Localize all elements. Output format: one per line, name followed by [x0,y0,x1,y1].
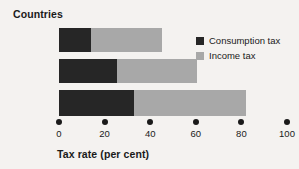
x-axis-title: Tax rate (per cent) [57,148,149,160]
x-axis-tick-label: 40 [130,128,170,139]
legend-label: Income tax [209,50,255,61]
bar-segment-consumption-tax[interactable] [59,90,134,116]
bar-segment-consumption-tax[interactable] [59,59,117,83]
legend-item-income-tax[interactable]: Income tax [196,49,280,62]
x-axis-tick-label: 100 [267,128,299,139]
bar-segment-consumption-tax[interactable] [59,28,91,52]
legend-swatch-icon [196,37,204,45]
x-axis-tick-label: 0 [39,128,79,139]
tick-dot-icon [238,119,244,125]
plot-area: US UK France 020406080100 Tax rate (per [0,0,299,169]
legend-swatch-icon [196,52,204,60]
legend-item-consumption-tax[interactable]: Consumption tax [196,34,280,47]
x-axis-tick-label: 20 [85,128,125,139]
tick-dot-icon [284,119,290,125]
x-axis-tick-label: 60 [176,128,216,139]
bar-segment-income-tax[interactable] [134,90,246,116]
tick-dot-icon [56,119,62,125]
x-axis: 020406080100 [0,119,299,145]
tick-dot-icon [193,119,199,125]
tick-dot-icon [102,119,108,125]
legend: Consumption tax Income tax [196,34,280,64]
legend-label: Consumption tax [209,35,280,46]
stacked-bar-us[interactable] [59,28,162,52]
bar-segment-income-tax[interactable] [91,28,162,52]
stacked-bar-uk[interactable] [59,59,197,83]
x-axis-tick-label: 80 [221,128,261,139]
tick-dot-icon [147,119,153,125]
chart-container: Countries US UK France 0 [0,0,299,169]
bar-segment-income-tax[interactable] [117,59,197,83]
stacked-bar-france[interactable] [59,90,246,116]
